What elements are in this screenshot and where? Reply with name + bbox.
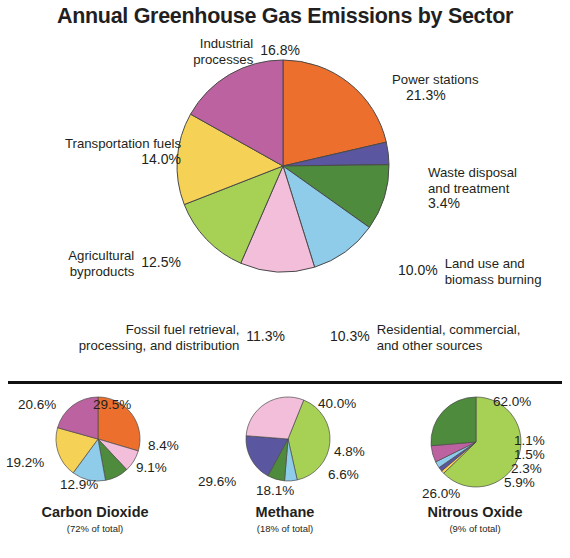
- value-land-use: 10.0%: [398, 256, 438, 279]
- value-co2-e: 19.2%: [6, 455, 44, 470]
- nitrous-oxide-subtitle: (9% of total): [380, 523, 570, 534]
- gas-breakdown-row: 29.5% 8.4% 9.1% 12.9% 19.2% 20.6% Carbon…: [0, 390, 570, 558]
- value-n2o-b: 1.1%: [514, 433, 545, 448]
- section-divider: [8, 381, 562, 384]
- value-transportation-fuels: 14.0%: [6, 152, 181, 168]
- pie-slice: [431, 397, 476, 446]
- label-power-stations: Power stations 21.3%: [392, 72, 567, 103]
- value-ch4-e: 29.6%: [198, 474, 236, 489]
- value-waste-disposal: 3.4%: [428, 196, 570, 212]
- value-co2-d: 12.9%: [60, 477, 98, 492]
- value-residential: 10.3%: [330, 322, 370, 345]
- value-n2o-c: 1.5%: [514, 447, 545, 462]
- value-ch4-d: 18.1%: [256, 483, 294, 498]
- label-fossil-line2: processing, and distribution: [79, 338, 240, 354]
- panel-nitrous-oxide: 62.0% 1.1% 1.5% 2.3% 5.9% 26.0% Nitrous …: [380, 390, 570, 558]
- label-waste-line1: Waste disposal: [428, 165, 570, 181]
- value-co2-c: 9.1%: [136, 460, 167, 475]
- label-waste-disposal: Waste disposal and treatment 3.4%: [428, 165, 570, 212]
- methane-title: Methane: [190, 504, 380, 520]
- value-ch4-b: 4.8%: [334, 444, 365, 459]
- label-transport-line1: Transportation fuels: [6, 136, 181, 152]
- nitrous-oxide-title: Nitrous Oxide: [380, 504, 570, 520]
- value-co2-a: 29.5%: [93, 397, 131, 412]
- label-fossil-fuel: Fossil fuel retrieval, processing, and d…: [30, 322, 285, 353]
- main-pie-chart: [175, 58, 391, 274]
- label-agri-line1: Agricultural: [68, 248, 134, 264]
- label-transportation-fuels: Transportation fuels 14.0%: [6, 136, 181, 167]
- value-n2o-a: 62.0%: [493, 394, 531, 409]
- value-co2-b: 8.4%: [148, 438, 179, 453]
- value-fossil-fuel: 11.3%: [246, 322, 285, 345]
- label-agri-line2: byproducts: [68, 264, 134, 280]
- label-fossil-line1: Fossil fuel retrieval,: [79, 322, 240, 338]
- label-power-line1: Power stations: [392, 72, 567, 88]
- label-landuse-line2: biomass burning: [445, 272, 542, 288]
- value-ch4-c: 6.6%: [328, 467, 359, 482]
- carbon-dioxide-subtitle: (72% of total): [0, 523, 190, 534]
- value-n2o-d: 2.3%: [511, 461, 542, 476]
- label-industrial-processes: Industrial processes 16.8%: [120, 36, 300, 67]
- label-industrial-line1: Industrial: [193, 36, 253, 52]
- label-landuse-line1: Land use and: [445, 256, 542, 272]
- carbon-dioxide-title: Carbon Dioxide: [0, 504, 190, 520]
- label-residential: 10.3% Residential, commercial, and other…: [330, 322, 570, 353]
- value-ch4-a: 40.0%: [318, 396, 356, 411]
- value-agricultural-byproducts: 12.5%: [141, 248, 181, 271]
- panel-methane: 40.0% 4.8% 6.6% 18.1% 29.6% Methane (18%…: [190, 390, 380, 558]
- main-pie-svg: [175, 58, 391, 274]
- value-co2-f: 20.6%: [18, 397, 56, 412]
- label-land-use: 10.0% Land use and biomass burning: [398, 256, 570, 287]
- value-n2o-f: 26.0%: [422, 486, 460, 501]
- value-power-stations: 21.3%: [392, 88, 446, 104]
- label-waste-line2: and treatment: [428, 181, 570, 197]
- panel-carbon-dioxide: 29.5% 8.4% 9.1% 12.9% 19.2% 20.6% Carbon…: [0, 390, 190, 558]
- methane-subtitle: (18% of total): [190, 523, 380, 534]
- label-residential-line1: Residential, commercial,: [377, 322, 521, 338]
- value-n2o-e: 5.9%: [504, 475, 535, 490]
- page-title: Annual Greenhouse Gas Emissions by Secto…: [0, 4, 570, 29]
- label-industrial-line2: processes: [193, 52, 253, 68]
- value-industrial-processes: 16.8%: [260, 36, 300, 59]
- label-agricultural-byproducts: Agricultural byproducts 12.5%: [6, 248, 181, 279]
- label-residential-line2: and other sources: [377, 338, 521, 354]
